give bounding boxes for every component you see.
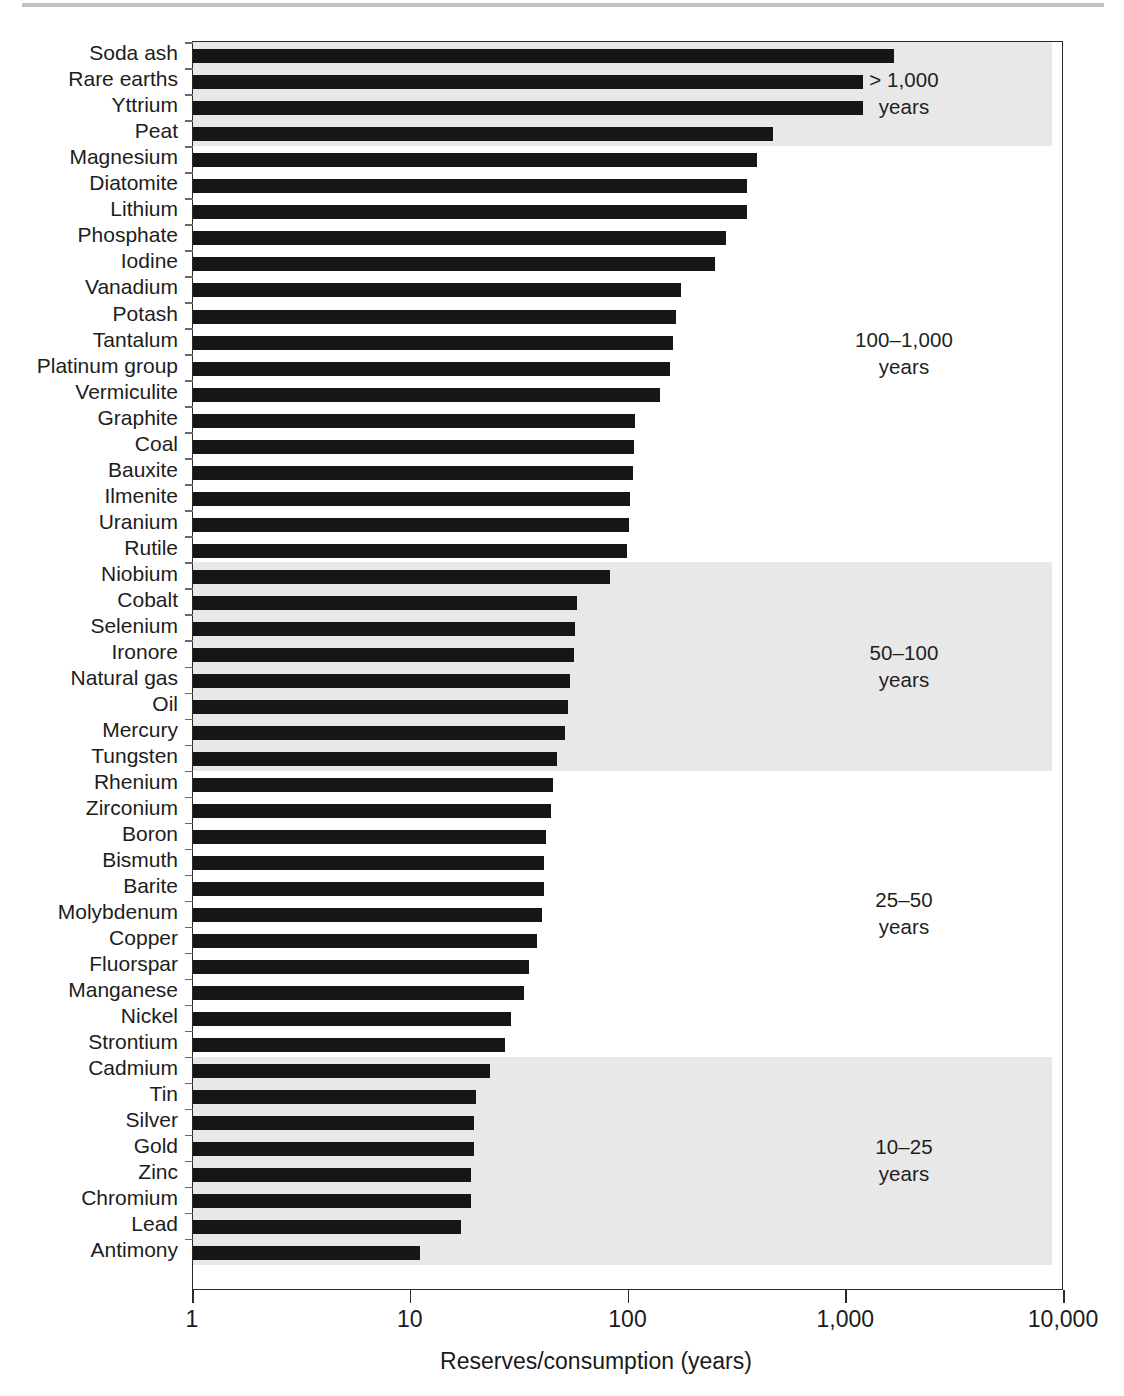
y-tick — [185, 250, 193, 252]
category-label: Tantalum — [0, 328, 178, 352]
category-label: Strontium — [0, 1030, 178, 1054]
y-tick — [185, 1135, 193, 1137]
category-label: Lead — [0, 1212, 178, 1236]
y-tick — [185, 68, 193, 70]
bar — [193, 75, 863, 89]
y-tick — [185, 1239, 193, 1241]
bar — [193, 492, 630, 506]
band-label-line2: years — [804, 913, 1004, 940]
bar — [193, 49, 894, 63]
category-label: Graphite — [0, 406, 178, 430]
category-label: Uranium — [0, 510, 178, 534]
category-label: Rhenium — [0, 770, 178, 794]
bar — [193, 674, 570, 688]
bar — [193, 648, 574, 662]
category-label: Ironore — [0, 640, 178, 664]
y-tick — [185, 172, 193, 174]
bar — [193, 752, 557, 766]
category-label: Ilmenite — [0, 484, 178, 508]
category-label: Vermiculite — [0, 380, 178, 404]
bar — [193, 856, 544, 870]
y-tick — [185, 224, 193, 226]
y-tick — [185, 302, 193, 304]
x-tick-label: 10,000 — [1028, 1306, 1098, 1333]
category-label: Vanadium — [0, 275, 178, 299]
y-tick — [185, 198, 193, 200]
category-label: Natural gas — [0, 666, 178, 690]
category-label: Yttrium — [0, 93, 178, 117]
y-tick — [185, 719, 193, 721]
band-label-line2: years — [804, 666, 1004, 693]
y-tick — [185, 875, 193, 877]
y-tick — [185, 927, 193, 929]
y-tick — [185, 849, 193, 851]
y-tick — [185, 1213, 193, 1215]
category-label: Rutile — [0, 536, 178, 560]
bar — [193, 153, 757, 167]
category-label: Cadmium — [0, 1056, 178, 1080]
category-label: Zirconium — [0, 796, 178, 820]
y-tick — [185, 1187, 193, 1189]
category-label: Iodine — [0, 249, 178, 273]
y-tick — [185, 614, 193, 616]
category-label: Selenium — [0, 614, 178, 638]
bar — [193, 1168, 471, 1182]
category-label: Niobium — [0, 562, 178, 586]
y-tick — [185, 432, 193, 434]
bar — [193, 231, 726, 245]
band-label-line2: years — [804, 1160, 1004, 1187]
y-tick — [185, 1109, 193, 1111]
band-label-line1: 50–100 — [804, 639, 1004, 666]
category-label: Silver — [0, 1108, 178, 1132]
x-tick — [628, 1290, 630, 1303]
category-label: Chromium — [0, 1186, 178, 1210]
y-tick — [185, 1083, 193, 1085]
category-label: Nickel — [0, 1004, 178, 1028]
y-tick — [185, 640, 193, 642]
y-tick — [185, 406, 193, 408]
bar — [193, 1246, 420, 1260]
y-tick — [185, 979, 193, 981]
category-label: Bismuth — [0, 848, 178, 872]
y-tick — [185, 94, 193, 96]
y-tick — [185, 510, 193, 512]
y-tick — [185, 328, 193, 330]
y-tick — [185, 536, 193, 538]
y-tick — [185, 380, 193, 382]
y-tick — [185, 745, 193, 747]
bar — [193, 388, 660, 402]
category-label: Cobalt — [0, 588, 178, 612]
bar — [193, 414, 635, 428]
band-label-line1: 25–50 — [804, 886, 1004, 913]
category-label: Oil — [0, 692, 178, 716]
x-tick-label: 100 — [608, 1306, 646, 1333]
y-tick — [185, 823, 193, 825]
bar — [193, 257, 715, 271]
category-label: Manganese — [0, 978, 178, 1002]
bar — [193, 518, 629, 532]
bar — [193, 960, 529, 974]
category-label: Zinc — [0, 1160, 178, 1184]
y-tick — [185, 458, 193, 460]
bar — [193, 1038, 505, 1052]
band-label-line1: > 1,000 — [804, 66, 1004, 93]
x-tick — [192, 1290, 194, 1303]
bar — [193, 570, 610, 584]
bar — [193, 804, 551, 818]
y-tick — [185, 146, 193, 148]
bar — [193, 830, 546, 844]
bar — [193, 310, 676, 324]
x-tick — [1063, 1290, 1065, 1303]
bar — [193, 362, 670, 376]
category-label: Peat — [0, 119, 178, 143]
bar — [193, 127, 773, 141]
bar — [193, 778, 553, 792]
category-label: Boron — [0, 822, 178, 846]
category-label: Rare earths — [0, 67, 178, 91]
bar — [193, 1116, 474, 1130]
category-label: Barite — [0, 874, 178, 898]
band-label: 50–100years — [804, 639, 1004, 693]
bar — [193, 622, 575, 636]
category-label: Platinum group — [0, 354, 178, 378]
category-label: Tin — [0, 1082, 178, 1106]
